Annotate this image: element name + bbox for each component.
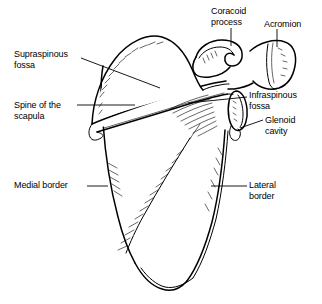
- coracoid-hatching: [203, 51, 217, 63]
- scapula-illustration: [0, 0, 322, 304]
- coracoid-process-group: [193, 40, 242, 77]
- scapula-diagram: Supraspinous fossa Spine of the scapula …: [0, 0, 322, 304]
- acromion-spine-junction: [228, 83, 253, 89]
